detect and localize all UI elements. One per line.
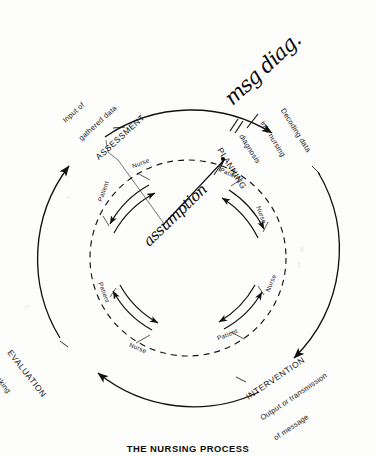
- outer-arc-planning-to-intervention: [294, 172, 339, 358]
- outer-arc-intervention-to-evaluation: [98, 373, 259, 407]
- planning-leader-line: [312, 166, 320, 174]
- planning-line-2: into nursing: [258, 120, 292, 167]
- figure-caption: THE NURSING PROCESS: [0, 443, 376, 454]
- outer-arc-evaluation-to-assessment: [38, 166, 69, 338]
- arc-break-tick: [230, 119, 243, 133]
- inner-arrow-pair-lower-left: [113, 285, 158, 330]
- evaluation-leader-line: [60, 341, 68, 347]
- inner-arrow-pair-upper-left: [110, 185, 155, 233]
- planning-line-3: diagnosis: [237, 133, 271, 180]
- inner-arrow-pair-lower-right: [219, 285, 262, 329]
- planning-line-1: Decoding data: [279, 107, 313, 154]
